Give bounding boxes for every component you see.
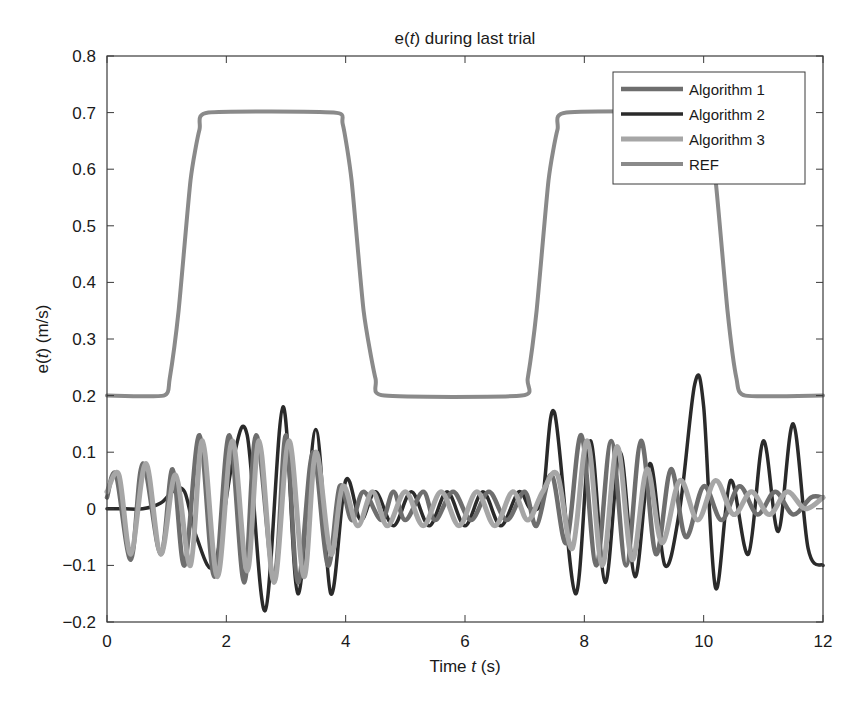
- x-tick-label: 0: [102, 632, 111, 651]
- y-axis-label: e(t) (m/s): [33, 305, 52, 374]
- x-tick-label: 4: [341, 632, 350, 651]
- x-tick-label: 8: [580, 632, 589, 651]
- y-tick-label: 0.2: [72, 387, 96, 406]
- y-tick-label: 0.5: [72, 217, 96, 236]
- legend: Algorithm 1Algorithm 2Algorithm 3REF: [613, 72, 805, 184]
- y-tick-label: 0: [87, 500, 96, 519]
- y-tick-label: −0.2: [62, 613, 96, 632]
- legend-label: Algorithm 1: [689, 81, 765, 98]
- y-tick-label: 0.7: [72, 104, 96, 123]
- chart: e(t) during last trial 024681012 −0.2−0.…: [0, 0, 862, 715]
- legend-label: Algorithm 3: [689, 131, 765, 148]
- x-tick-label: 6: [460, 632, 469, 651]
- legend-label: REF: [689, 156, 719, 173]
- y-tick-label: 0.3: [72, 330, 96, 349]
- y-tick-label: 0.4: [72, 273, 96, 292]
- legend-label: Algorithm 2: [689, 106, 765, 123]
- y-tick-label: −0.1: [62, 556, 96, 575]
- series-layer: [107, 111, 823, 610]
- chart-title: e(t) during last trial: [395, 29, 536, 48]
- x-tick-label: 10: [694, 632, 713, 651]
- y-tick-label: 0.1: [72, 443, 96, 462]
- y-tick-label: 0.6: [72, 160, 96, 179]
- x-tick-label: 12: [814, 632, 833, 651]
- x-axis-label: Time t (s): [429, 657, 500, 676]
- y-tick-label: 0.8: [72, 47, 96, 66]
- x-tick-label: 2: [222, 632, 231, 651]
